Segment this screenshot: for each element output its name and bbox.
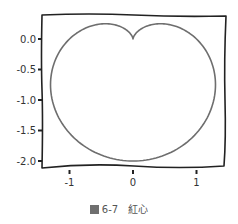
cardioid-curve bbox=[51, 24, 216, 161]
y-tick-label: -1.0 bbox=[16, 95, 36, 106]
x-tick-label: 1 bbox=[193, 177, 199, 188]
figure-number: 6-7 bbox=[102, 204, 118, 215]
y-axis: 0.0-0.5-1.0-1.5-2.0 bbox=[16, 34, 42, 167]
y-tick-label: -2.0 bbox=[16, 156, 36, 167]
y-tick-label: -0.5 bbox=[16, 64, 36, 75]
x-axis: -101 bbox=[65, 170, 200, 188]
figure-caption: 6-7紅心 bbox=[0, 201, 238, 216]
x-tick-label: -1 bbox=[65, 177, 75, 188]
y-tick-label: 0.0 bbox=[20, 34, 36, 45]
figure-icon bbox=[90, 205, 99, 214]
figure-title: 紅心 bbox=[128, 204, 148, 215]
cardioid-chart: 0.0-0.5-1.0-1.5-2.0 -101 bbox=[0, 0, 238, 195]
y-tick-label: -1.5 bbox=[16, 125, 36, 136]
x-tick-label: 0 bbox=[130, 177, 136, 188]
